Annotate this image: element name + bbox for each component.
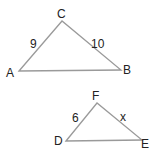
side-label-fe: x [120, 110, 126, 124]
vertex-label-e: E [141, 137, 149, 151]
vertex-label-c: C [57, 7, 66, 21]
side-label-df: 6 [72, 111, 79, 125]
vertex-label-d: D [54, 134, 63, 148]
vertex-label-b: B [123, 63, 131, 77]
similar-triangles-diagram: C A B 9 10 F D E 6 x [0, 0, 154, 154]
side-label-ac: 9 [30, 37, 37, 51]
diagram-svg: C A B 9 10 F D E 6 x [0, 0, 154, 154]
vertex-label-a: A [6, 66, 14, 80]
vertex-label-f: F [92, 89, 99, 103]
side-label-cb: 10 [91, 37, 105, 51]
